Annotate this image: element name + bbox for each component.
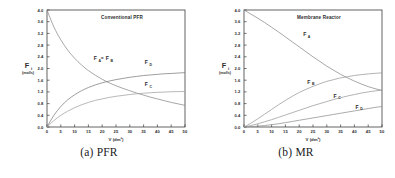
pfr-xtick-label: 40 xyxy=(155,129,160,134)
chart-pfr-svg: 0.00.40.81.21.62.02.42.83.23.64.00510152… xyxy=(0,0,198,145)
mr-series-label: FB xyxy=(307,79,315,87)
figure-sheet: 0.00.40.81.21.62.02.42.83.23.64.00510152… xyxy=(0,0,395,178)
mr-yaxis-title: F xyxy=(222,61,227,70)
pfr-series-fd xyxy=(47,73,185,127)
figure-panel-mr: 0.00.40.81.21.62.02.42.83.23.64.00510152… xyxy=(197,0,395,158)
mr-xtick-label: 50 xyxy=(380,129,385,134)
mr-ytick-label: 2.0 xyxy=(235,66,242,71)
mr-series-label: FA xyxy=(303,31,311,39)
mr-xtick-label: 0 xyxy=(243,129,246,134)
svg-text:F: F xyxy=(145,81,148,87)
pfr-ytick-label: 1.6 xyxy=(38,78,45,83)
pfr-ytick-label: 3.2 xyxy=(38,31,45,36)
pfr-series-label: FC xyxy=(145,81,153,89)
svg-text:D: D xyxy=(149,63,152,67)
pfr-ytick-label: 2.4 xyxy=(38,54,45,59)
svg-text:B: B xyxy=(110,59,113,63)
mr-plot-title: Membrane Reactor xyxy=(297,15,341,20)
svg-text:F: F xyxy=(94,55,97,61)
pfr-ytick-label: 0.4 xyxy=(38,113,45,118)
pfr-xtick-label: 35 xyxy=(141,129,146,134)
svg-text:F: F xyxy=(303,31,306,37)
figure-panel-pfr: 0.00.40.81.21.62.02.42.83.23.64.00510152… xyxy=(0,0,198,158)
svg-text:C: C xyxy=(149,85,152,89)
mr-ytick-label: 4.0 xyxy=(235,8,242,13)
pfr-xtick-label: 25 xyxy=(114,129,119,134)
pfr-xtick-label: 20 xyxy=(100,129,105,134)
mr-ytick-label: 2.8 xyxy=(235,43,242,48)
pfr-plot-title: Conventional PFR xyxy=(101,15,143,20)
pfr-ytick-label: 2.0 xyxy=(38,66,45,71)
mr-ytick-label: 1.6 xyxy=(235,78,242,83)
chart-mr-content: 0.00.40.81.21.62.02.42.83.23.64.00510152… xyxy=(219,8,385,142)
pfr-plot-frame xyxy=(47,10,185,127)
pfr-ytick-label: 3.6 xyxy=(38,19,45,24)
svg-text:F: F xyxy=(356,104,359,110)
pfr-xtick-label: 15 xyxy=(86,129,91,134)
pfr-xtick-label: 50 xyxy=(183,129,188,134)
mr-ytick-label: 0.4 xyxy=(235,113,242,118)
pfr-ytick-label: 2.8 xyxy=(38,43,45,48)
pfr-ytick-label: 0.8 xyxy=(38,101,45,106)
mr-xtick-label: 15 xyxy=(283,129,288,134)
mr-series-fb xyxy=(244,73,382,127)
mr-ytick-label: 0.8 xyxy=(235,101,242,106)
mr-xtick-label: 25 xyxy=(311,129,316,134)
mr-xtick-label: 45 xyxy=(366,129,371,134)
pfr-ytick-label: 4.0 xyxy=(38,8,45,13)
svg-text:F: F xyxy=(307,79,310,85)
pfr-xtick-label: 45 xyxy=(169,129,174,134)
svg-text:F: F xyxy=(106,55,109,61)
svg-text:F: F xyxy=(334,93,337,99)
mr-xtick-label: 30 xyxy=(324,129,329,134)
mr-ytick-label: 1.2 xyxy=(235,89,242,94)
pfr-yaxis-title: F xyxy=(25,61,30,70)
pfr-xtick-label: 10 xyxy=(72,129,77,134)
pfr-series-fc xyxy=(47,91,185,127)
chart-pfr: 0.00.40.81.21.62.02.42.83.23.64.00510152… xyxy=(0,0,198,145)
pfr-xtick-label: 5 xyxy=(60,129,63,134)
pfr-xtick-label: 0 xyxy=(46,129,49,134)
caption-mr: (b) MR xyxy=(197,146,395,158)
svg-text:C: C xyxy=(338,96,341,100)
mr-ytick-label: 3.6 xyxy=(235,19,242,24)
caption-pfr: (a) PFR xyxy=(0,146,198,158)
pfr-yaxis-units: (mol/s) xyxy=(22,71,35,75)
pfr-series-label: FA=FB xyxy=(94,55,114,63)
pfr-xaxis-title: V (dm³) xyxy=(109,137,124,142)
mr-series-fa xyxy=(244,10,382,90)
mr-ytick-label: 3.2 xyxy=(235,31,242,36)
mr-xtick-label: 10 xyxy=(269,129,274,134)
svg-text:=: = xyxy=(101,55,104,61)
pfr-series-fafb xyxy=(47,10,185,105)
svg-text:A: A xyxy=(308,35,311,39)
chart-pfr-content: 0.00.40.81.21.62.02.42.83.23.64.00510152… xyxy=(22,8,188,142)
mr-xtick-label: 35 xyxy=(338,129,343,134)
chart-mr: 0.00.40.81.21.62.02.42.83.23.64.00510152… xyxy=(197,0,395,145)
mr-yaxis-units: (mol/s) xyxy=(219,71,232,75)
pfr-xtick-label: 30 xyxy=(127,129,132,134)
mr-ytick-label: 0.0 xyxy=(235,125,242,130)
pfr-ytick-label: 1.2 xyxy=(38,89,45,94)
mr-xtick-label: 20 xyxy=(297,129,302,134)
mr-xtick-label: 40 xyxy=(352,129,357,134)
pfr-series-label: FD xyxy=(145,59,153,67)
svg-text:F: F xyxy=(145,59,148,65)
pfr-ytick-label: 0.0 xyxy=(38,125,45,130)
mr-xaxis-title: V (dm³) xyxy=(306,137,321,142)
mr-xtick-label: 5 xyxy=(257,129,260,134)
chart-mr-svg: 0.00.40.81.21.62.02.42.83.23.64.00510152… xyxy=(197,0,395,145)
mr-ytick-label: 2.4 xyxy=(235,54,242,59)
